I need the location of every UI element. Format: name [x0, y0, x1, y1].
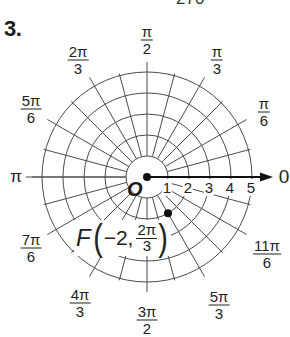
- left-paren: (: [93, 220, 103, 256]
- radial-line: [44, 149, 127, 171]
- radial-line: [90, 77, 137, 158]
- cut-off-text: 270: [176, 0, 204, 9]
- point-theta-fraction: 2π 3: [136, 223, 157, 253]
- angle-label-90: π2: [141, 25, 153, 56]
- angle-denominator: 3: [213, 61, 221, 76]
- angle-label-0: 0: [279, 166, 290, 188]
- angle-denominator: 6: [27, 249, 35, 264]
- angle-denominator: 6: [260, 113, 268, 128]
- axis-tick-3: 3: [204, 179, 214, 196]
- angle-label-270: 3π2: [137, 305, 158, 336]
- radial-line: [165, 120, 246, 167]
- angle-denominator: 3: [74, 61, 82, 76]
- angle-numerator: 3π: [137, 305, 158, 321]
- axis-tick-1: 1: [162, 179, 172, 196]
- radial-line: [44, 182, 127, 204]
- angle-numerator: π: [258, 97, 270, 113]
- angle-numerator: π: [211, 45, 223, 61]
- axis-tick-2: 2: [183, 179, 193, 196]
- angle-label-30: π6: [258, 97, 270, 128]
- pole-label: O: [127, 178, 143, 201]
- angle-numerator: 7π: [21, 233, 42, 249]
- angle-denominator: 6: [27, 110, 35, 125]
- radial-line: [152, 74, 174, 157]
- angle-label-60: π3: [211, 45, 223, 76]
- angle-denominator: 3: [76, 304, 84, 319]
- angle-label-240: 4π3: [70, 288, 91, 319]
- angle-numerator: 2π: [68, 45, 89, 61]
- radial-line: [119, 74, 141, 157]
- radial-line: [71, 101, 132, 162]
- angle-numerator: π: [141, 25, 153, 41]
- theta-denominator: 3: [143, 239, 151, 253]
- problem-number: 3.: [4, 16, 21, 42]
- angle-numerator: 4π: [70, 288, 91, 304]
- angle-label-300: 5π3: [209, 290, 230, 321]
- angle-denominator: 2: [143, 41, 151, 56]
- point-f-label: F ( −2, 2π 3 ): [74, 220, 171, 256]
- angle-label-150: 5π6: [21, 94, 42, 125]
- radial-line: [47, 120, 128, 167]
- axis-tick-5: 5: [246, 179, 256, 196]
- angle-numerator: 11π: [253, 239, 281, 255]
- point-name: F: [76, 224, 91, 252]
- radial-line: [167, 149, 250, 171]
- angle-denominator: 2: [143, 321, 151, 336]
- angle-label-330: 11π6: [253, 239, 281, 270]
- arrow-head-icon: [260, 173, 273, 182]
- angle-label-210: 7π6: [21, 233, 42, 264]
- right-paren: ): [158, 220, 168, 256]
- angle-denominator: 6: [263, 255, 271, 270]
- pole-dot: [143, 173, 151, 181]
- point-r-value: −2,: [104, 226, 134, 250]
- radial-line: [158, 77, 205, 158]
- angle-numerator: 5π: [209, 290, 230, 306]
- angle-label-120: 2π3: [68, 45, 89, 76]
- angle-denominator: 3: [215, 306, 223, 321]
- angle-label-180: π: [10, 167, 22, 187]
- angle-numerator: 5π: [21, 94, 42, 110]
- axis-tick-4: 4: [225, 179, 235, 196]
- radial-line: [162, 101, 223, 162]
